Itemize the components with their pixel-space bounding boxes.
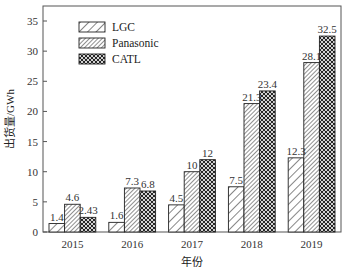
- y-tick-label: 25: [27, 75, 39, 87]
- bars: [49, 36, 335, 232]
- bar-panasonic-2018: [244, 104, 260, 232]
- x-tick-label: 2015: [61, 238, 84, 250]
- bar-catl-2017: [200, 160, 216, 232]
- bar-lgc-2019: [288, 158, 304, 232]
- y-tick-label: 15: [27, 136, 39, 148]
- y-tick-label: 30: [27, 45, 39, 57]
- legend: LGCPanasonicCATL: [79, 21, 159, 65]
- bar-panasonic-2019: [304, 63, 320, 232]
- value-label: 6.8: [141, 178, 155, 190]
- y-tick-label: 35: [27, 15, 39, 27]
- x-tick-label: 2018: [241, 238, 264, 250]
- legend-label-lgc: LGC: [112, 21, 135, 33]
- value-label: 2.43: [78, 204, 98, 216]
- value-label: 32.5: [318, 23, 338, 35]
- legend-swatch-catl: [79, 54, 105, 64]
- value-label: 21.3: [242, 91, 262, 103]
- value-label: 7.5: [229, 174, 243, 186]
- y-axis-title: 出货量/GWh: [3, 89, 16, 149]
- bar-panasonic-2017: [184, 172, 200, 232]
- value-label: 4.6: [66, 191, 80, 203]
- legend-label-panasonic: Panasonic: [112, 37, 159, 49]
- legend-swatch-lgc: [79, 22, 105, 32]
- bar-catl-2015: [80, 217, 96, 232]
- x-tick-label: 2017: [181, 238, 204, 250]
- bar-catl-2019: [319, 36, 335, 232]
- value-label: 4.5: [170, 192, 184, 204]
- value-label: 1.6: [110, 209, 124, 221]
- y-tick-label: 5: [33, 196, 39, 208]
- value-label: 12.3: [286, 145, 306, 157]
- legend-swatch-panasonic: [79, 38, 105, 48]
- y-tick-label: 10: [27, 166, 39, 178]
- value-label: 10: [187, 159, 199, 171]
- x-tick-label: 2019: [301, 238, 324, 250]
- bar-lgc-2017: [169, 205, 185, 232]
- x-axis-title: 年份: [181, 255, 203, 268]
- x-axis: 20152016201720182019: [61, 238, 323, 250]
- x-tick-label: 2016: [121, 238, 144, 250]
- value-label: 7.3: [125, 175, 139, 187]
- y-tick-label: 0: [33, 226, 39, 238]
- bar-lgc-2016: [109, 222, 125, 232]
- bar-lgc-2015: [49, 224, 65, 232]
- bar-chart: 05101520253035 20152016201720182019 1.44…: [0, 0, 350, 274]
- bar-panasonic-2016: [124, 188, 140, 232]
- value-label: 23.4: [258, 78, 278, 90]
- bar-catl-2018: [260, 91, 276, 232]
- y-axis: 05101520253035: [27, 15, 47, 238]
- bar-catl-2016: [140, 191, 156, 232]
- legend-label-catl: CATL: [112, 53, 141, 65]
- y-tick-label: 20: [27, 105, 39, 117]
- value-label: 1.4: [50, 211, 64, 223]
- value-label: 12: [202, 147, 213, 159]
- bar-lgc-2018: [228, 187, 244, 232]
- value-label: 28.1: [302, 50, 321, 62]
